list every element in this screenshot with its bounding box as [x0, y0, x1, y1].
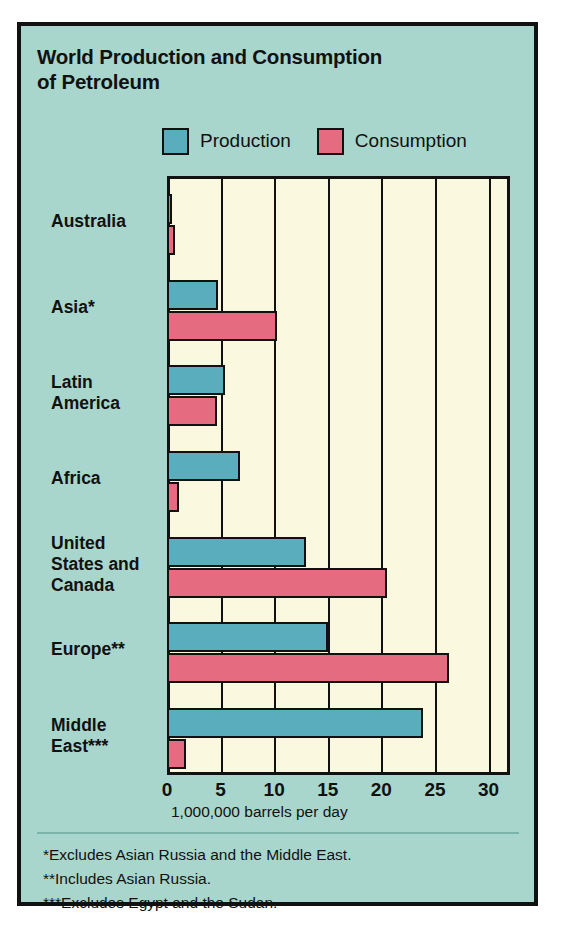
category-label-2: LatinAmerica: [51, 372, 171, 414]
bar-consumption-2: [167, 396, 217, 426]
bar-production-5: [167, 622, 328, 652]
gridline-25: [435, 176, 437, 775]
category-label-line: Australia: [51, 211, 171, 232]
bar-production-2: [167, 365, 225, 395]
category-label-5: Europe**: [51, 639, 171, 660]
category-label-line: America: [51, 393, 171, 414]
x-tick-0: 0: [162, 779, 173, 801]
category-label-6: MiddleEast***: [51, 715, 171, 757]
legend-label-consumption: Consumption: [355, 130, 467, 152]
category-label-line: Latin: [51, 372, 171, 393]
bar-production-3: [167, 451, 240, 481]
plot-area: [167, 176, 510, 775]
category-label-line: Canada: [51, 575, 171, 596]
bar-consumption-4: [167, 568, 387, 598]
x-axis-ticks: 051015202530: [167, 779, 527, 805]
x-tick-25: 25: [424, 779, 445, 801]
category-label-1: Asia*: [51, 297, 171, 318]
chart-legend: Production Consumption: [162, 126, 467, 156]
gridline-15: [328, 176, 330, 775]
legend-label-production: Production: [200, 130, 291, 152]
x-tick-10: 10: [264, 779, 285, 801]
category-label-line: Europe**: [51, 639, 171, 660]
x-tick-20: 20: [371, 779, 392, 801]
footnote-2: **Includes Asian Russia.: [43, 867, 513, 891]
legend-item-production: Production: [162, 128, 291, 155]
bar-production-1: [167, 280, 218, 310]
footnote-divider: [37, 832, 519, 834]
category-label-line: Middle: [51, 715, 171, 736]
category-label-line: Africa: [51, 468, 171, 489]
production-swatch: [162, 128, 189, 155]
footnotes: *Excludes Asian Russia and the Middle Ea…: [43, 843, 513, 915]
category-label-4: UnitedStates andCanada: [51, 533, 171, 596]
gridline-10: [274, 176, 276, 775]
gridline-20: [381, 176, 383, 775]
legend-item-consumption: Consumption: [317, 128, 467, 155]
x-tick-5: 5: [215, 779, 226, 801]
x-axis-title: 1,000,000 barrels per day: [171, 803, 348, 821]
title-line-1: World Production and Consumption: [37, 44, 507, 69]
consumption-swatch: [317, 128, 344, 155]
category-label-line: East***: [51, 736, 171, 757]
category-label-0: Australia: [51, 211, 171, 232]
bar-consumption-1: [167, 311, 277, 341]
bar-production-6: [167, 708, 423, 738]
bar-production-4: [167, 537, 306, 567]
category-label-line: Asia*: [51, 297, 171, 318]
bar-consumption-5: [167, 653, 449, 683]
chart-title: World Production and Consumption of Petr…: [37, 44, 507, 94]
category-label-3: Africa: [51, 468, 171, 489]
footnote-1: *Excludes Asian Russia and the Middle Ea…: [43, 843, 513, 867]
title-line-2: of Petroleum: [37, 69, 507, 94]
footnote-3: ***Excludes Egypt and the Sudan.: [43, 891, 513, 915]
category-label-line: United: [51, 533, 171, 554]
x-tick-15: 15: [317, 779, 338, 801]
category-label-line: States and: [51, 554, 171, 575]
chart-figure: World Production and Consumption of Petr…: [17, 22, 538, 906]
x-tick-30: 30: [478, 779, 499, 801]
gridline-30: [489, 176, 491, 775]
